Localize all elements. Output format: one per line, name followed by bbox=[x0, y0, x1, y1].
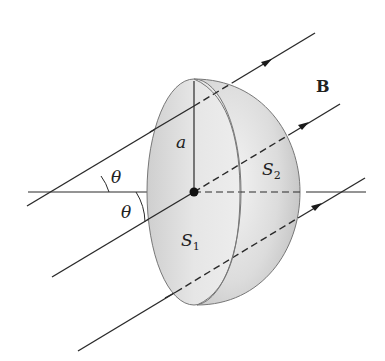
field-line-top-exit bbox=[232, 33, 315, 83]
field-line-bottom-exit bbox=[298, 178, 365, 218]
field-label: B bbox=[316, 77, 330, 96]
center-point bbox=[190, 188, 199, 197]
angle-label-upper: θ bbox=[111, 167, 121, 187]
hemisphere-diagram: θ θ a B S1 S2 bbox=[0, 0, 385, 361]
field-line-middle-exit bbox=[292, 104, 340, 133]
angle-arc-upper bbox=[101, 176, 109, 192]
arrow-icon-top bbox=[261, 59, 272, 67]
angle-arc-lower bbox=[136, 192, 145, 222]
angle-label-lower: θ bbox=[121, 202, 131, 222]
radius-label: a bbox=[176, 132, 186, 152]
field-line-bottom-outer bbox=[78, 292, 176, 351]
